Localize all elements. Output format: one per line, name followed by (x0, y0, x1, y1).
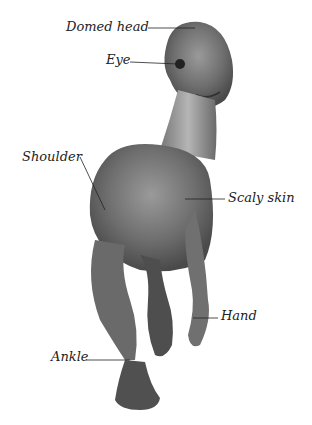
label-domed-head: Domed head (66, 20, 149, 34)
dinosaur-head (164, 22, 233, 108)
label-ankle: Ankle (51, 350, 89, 364)
label-scaly-skin: Scaly skin (228, 191, 295, 205)
label-hand: Hand (221, 309, 257, 323)
label-shoulder: Shoulder (22, 150, 82, 164)
dinosaur-illustration (0, 0, 312, 425)
dinosaur-foot (115, 360, 160, 410)
label-eye: Eye (106, 53, 131, 67)
